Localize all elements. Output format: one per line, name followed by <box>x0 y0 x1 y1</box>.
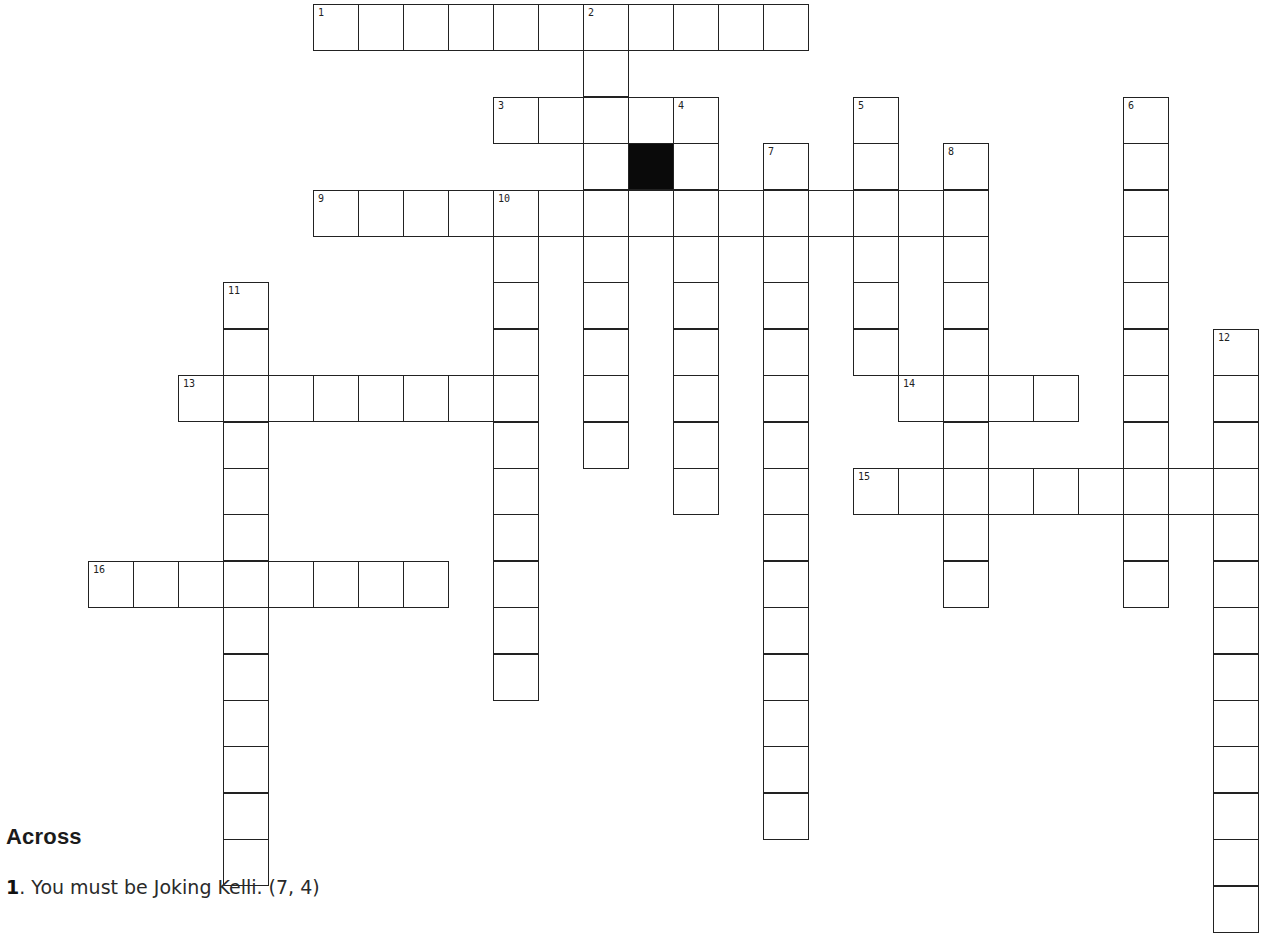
crossword-cell[interactable]: 13 <box>178 375 224 422</box>
crossword-cell[interactable] <box>223 700 269 747</box>
crossword-cell[interactable]: 15 <box>853 468 899 515</box>
crossword-cell[interactable] <box>583 375 629 422</box>
crossword-cell[interactable] <box>1168 468 1214 515</box>
crossword-cell[interactable]: 12 <box>1213 329 1259 376</box>
crossword-cell[interactable] <box>898 468 944 515</box>
crossword-cell[interactable]: 9 <box>313 190 359 237</box>
crossword-cell[interactable] <box>1033 375 1079 422</box>
crossword-cell[interactable] <box>763 514 809 561</box>
crossword-cell[interactable] <box>1123 190 1169 237</box>
crossword-cell[interactable] <box>943 514 989 561</box>
crossword-cell[interactable] <box>673 236 719 283</box>
crossword-cell[interactable] <box>1213 468 1259 515</box>
crossword-cell[interactable] <box>1213 607 1259 654</box>
crossword-cell[interactable] <box>718 190 764 237</box>
crossword-cell[interactable] <box>763 468 809 515</box>
crossword-cell[interactable] <box>853 143 899 190</box>
crossword-cell[interactable] <box>583 97 629 144</box>
crossword-cell[interactable] <box>1213 375 1259 422</box>
crossword-cell[interactable] <box>718 4 764 51</box>
crossword-cell[interactable]: 16 <box>88 561 134 608</box>
crossword-cell[interactable] <box>763 375 809 422</box>
crossword-cell[interactable] <box>673 282 719 329</box>
crossword-cell[interactable] <box>493 561 539 608</box>
crossword-cell[interactable] <box>1078 468 1124 515</box>
crossword-cell[interactable] <box>1213 561 1259 608</box>
crossword-cell[interactable] <box>223 654 269 701</box>
crossword-cell[interactable] <box>1213 422 1259 469</box>
crossword-cell[interactable] <box>493 514 539 561</box>
crossword-cell[interactable] <box>1213 886 1259 933</box>
crossword-cell[interactable] <box>448 4 494 51</box>
crossword-cell[interactable] <box>763 236 809 283</box>
crossword-cell[interactable] <box>1213 700 1259 747</box>
crossword-cell[interactable] <box>988 468 1034 515</box>
crossword-cell[interactable] <box>358 375 404 422</box>
crossword-cell[interactable] <box>943 282 989 329</box>
crossword-cell[interactable] <box>223 561 269 608</box>
crossword-cell[interactable] <box>313 561 359 608</box>
crossword-cell[interactable] <box>493 375 539 422</box>
crossword-cell[interactable] <box>178 561 224 608</box>
crossword-cell[interactable] <box>493 329 539 376</box>
crossword-cell[interactable] <box>853 282 899 329</box>
crossword-cell[interactable] <box>763 329 809 376</box>
crossword-cell[interactable] <box>538 4 584 51</box>
crossword-cell[interactable] <box>763 654 809 701</box>
crossword-cell[interactable] <box>853 329 899 376</box>
crossword-cell[interactable]: 1 <box>313 4 359 51</box>
crossword-cell[interactable] <box>583 190 629 237</box>
crossword-cell[interactable]: 6 <box>1123 97 1169 144</box>
crossword-cell[interactable] <box>1123 143 1169 190</box>
crossword-cell[interactable] <box>358 561 404 608</box>
crossword-cell[interactable] <box>223 468 269 515</box>
crossword-cell[interactable] <box>1123 561 1169 608</box>
crossword-cell[interactable] <box>763 607 809 654</box>
crossword-cell[interactable] <box>223 422 269 469</box>
crossword-cell[interactable] <box>493 422 539 469</box>
crossword-cell[interactable] <box>1123 468 1169 515</box>
crossword-cell[interactable] <box>403 190 449 237</box>
crossword-cell[interactable] <box>763 561 809 608</box>
crossword-cell[interactable] <box>673 468 719 515</box>
crossword-cell[interactable] <box>493 4 539 51</box>
crossword-cell[interactable] <box>943 561 989 608</box>
crossword-cell[interactable] <box>673 375 719 422</box>
crossword-cell[interactable]: 10 <box>493 190 539 237</box>
crossword-cell[interactable] <box>313 375 359 422</box>
crossword-cell[interactable] <box>943 422 989 469</box>
crossword-cell[interactable] <box>628 190 674 237</box>
crossword-cell[interactable] <box>223 329 269 376</box>
crossword-cell[interactable] <box>583 282 629 329</box>
crossword-cell[interactable] <box>853 236 899 283</box>
crossword-cell[interactable] <box>763 700 809 747</box>
crossword-cell[interactable] <box>493 654 539 701</box>
crossword-cell[interactable] <box>673 143 719 190</box>
crossword-cell[interactable] <box>223 375 269 422</box>
crossword-cell[interactable] <box>268 561 314 608</box>
crossword-cell[interactable] <box>763 422 809 469</box>
crossword-cell[interactable] <box>763 282 809 329</box>
crossword-cell[interactable] <box>403 561 449 608</box>
crossword-cell[interactable] <box>493 468 539 515</box>
crossword-cell[interactable] <box>628 97 674 144</box>
crossword-cell[interactable] <box>1123 514 1169 561</box>
crossword-cell[interactable] <box>853 190 899 237</box>
crossword-cell[interactable]: 14 <box>898 375 944 422</box>
crossword-cell[interactable] <box>673 4 719 51</box>
crossword-cell[interactable] <box>943 190 989 237</box>
crossword-cell[interactable] <box>1033 468 1079 515</box>
crossword-cell[interactable] <box>268 375 314 422</box>
crossword-cell[interactable]: 8 <box>943 143 989 190</box>
crossword-cell[interactable] <box>1123 329 1169 376</box>
crossword-cell[interactable] <box>943 468 989 515</box>
crossword-cell[interactable] <box>943 375 989 422</box>
crossword-cell[interactable] <box>1213 746 1259 793</box>
crossword-cell[interactable] <box>1123 375 1169 422</box>
crossword-cell[interactable] <box>1213 514 1259 561</box>
crossword-cell[interactable]: 2 <box>583 4 629 51</box>
crossword-cell[interactable] <box>358 190 404 237</box>
crossword-cell[interactable] <box>943 236 989 283</box>
crossword-cell[interactable] <box>403 4 449 51</box>
crossword-cell[interactable] <box>583 329 629 376</box>
